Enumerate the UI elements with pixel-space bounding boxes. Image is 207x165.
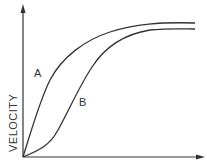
curve-b-label: B — [79, 96, 86, 108]
curve-b — [23, 29, 195, 157]
y-axis-arrow-icon — [21, 4, 26, 13]
x-axis-arrow-icon — [196, 155, 205, 160]
y-axis-label: VELOCITY — [7, 93, 19, 152]
x-axis — [23, 155, 205, 160]
y-axis — [21, 4, 26, 157]
curve-a-label: A — [34, 67, 42, 79]
curve-a — [23, 23, 195, 157]
velocity-curves-diagram: A B VELOCITY — [0, 0, 207, 165]
